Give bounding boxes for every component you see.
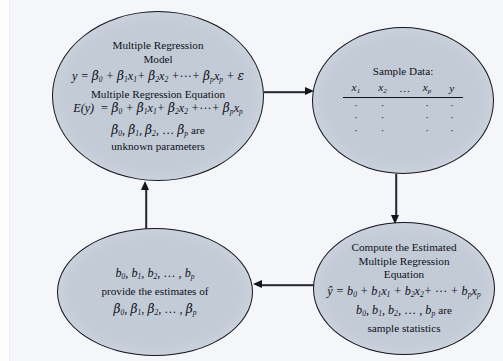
cell-dot: [396, 123, 414, 136]
estimates-middle-text: provide the estimates of: [101, 285, 208, 298]
node-sample-data: Sample Data: x1 x2 … xp y · · · ·: [312, 27, 494, 174]
column-header-x2: x2: [369, 81, 396, 98]
node-multiple-regression-model: Multiple Regression Model y = β0 + β1x1+…: [52, 11, 264, 181]
model-expected-equation: E(y) = β0 + β1x1+ β2x2 +···+ βpxp: [73, 101, 243, 117]
cell-dot: ·: [440, 111, 463, 124]
table-header-row: x1 x2 … xp y: [343, 81, 464, 98]
arrow-compute-to-estimates: [253, 277, 314, 293]
sample-data-title: Sample Data:: [373, 65, 434, 78]
cell-dot: ·: [369, 111, 396, 124]
estimates-parameters-line: β0, β1, β2, … , βp: [114, 302, 197, 318]
arrow-shaft: [145, 188, 147, 229]
compute-title-line1: Compute the Estimated: [351, 241, 456, 254]
sample-data-table: x1 x2 … xp y · · · · · ·: [343, 81, 464, 136]
model-title-line1: Multiple Regression: [112, 39, 203, 52]
arrowhead-up-icon: [141, 181, 149, 190]
cell-dot: ·: [440, 98, 463, 111]
table-row: · · · ·: [343, 123, 464, 136]
column-header-y: y: [440, 81, 463, 98]
cell-dot: ·: [343, 123, 370, 136]
arrowhead-left-icon: [253, 280, 262, 288]
cell-dot: ·: [343, 98, 370, 111]
model-parameters-caption: unknown parameters: [111, 140, 205, 153]
model-title-line2: Model: [143, 53, 172, 66]
cell-dot: [396, 111, 414, 124]
arrow-shaft: [261, 284, 314, 286]
compute-title-line3: Equation: [384, 268, 424, 281]
compute-statistics-caption: sample statistics: [367, 322, 440, 335]
cell-dot: ·: [343, 111, 370, 124]
compute-title-line2: Multiple Regression: [358, 255, 449, 268]
column-header-xp: xp: [414, 81, 441, 98]
arrowhead-down-icon: [391, 215, 399, 224]
column-header-x1: x1: [343, 81, 370, 98]
cell-dot: ·: [369, 123, 396, 136]
model-equation-heading: Multiple Regression Equation: [91, 88, 225, 101]
page-gutter: [0, 0, 10, 361]
arrow-estimates-to-model: [138, 181, 154, 229]
arrow-shaft: [395, 174, 397, 216]
table-row: · · · ·: [343, 98, 464, 111]
arrowhead-right-icon: [305, 87, 314, 95]
arrow-sample-to-compute: [388, 174, 404, 224]
diagram-canvas: Multiple Regression Model y = β0 + β1x1+…: [0, 0, 503, 361]
cell-dot: ·: [414, 111, 441, 124]
cell-dot: [396, 98, 414, 111]
node-sample-statistics-estimates: b0, b1, b2, … , bp provide the estimates…: [57, 228, 253, 356]
cell-dot: ·: [440, 123, 463, 136]
compute-statistics-line: b0, b1, b2, … , bp are: [356, 303, 452, 319]
node-compute-estimated-equation: Compute the Estimated Multiple Regressio…: [313, 222, 495, 355]
cell-dot: ·: [414, 123, 441, 136]
model-equation: y = β0 + β1x1+ β2x2 +···+ βpxp + ε: [72, 69, 244, 85]
arrow-shaft: [264, 91, 306, 93]
compute-estimated-equation: ŷ = b0 + b1x1 + b2x2+ ··· + bpxp: [327, 284, 480, 300]
cell-dot: ·: [414, 98, 441, 111]
estimates-coefficients-line: b0, b1, b2, … , bp: [115, 266, 194, 282]
column-header-ellipsis: …: [396, 81, 414, 98]
arrow-model-to-sample: [264, 84, 314, 100]
cell-dot: ·: [369, 98, 396, 111]
table-row: · · · ·: [343, 111, 464, 124]
model-parameters-line: β0, β1, β2, … βp are: [111, 123, 205, 139]
